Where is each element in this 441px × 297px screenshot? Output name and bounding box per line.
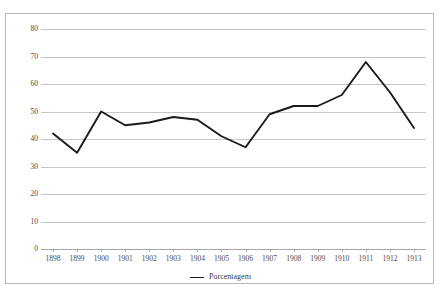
x-tick-1902 — [149, 249, 150, 252]
y-tick-label-10: 10 — [12, 218, 38, 226]
x-tick-1913 — [414, 249, 415, 252]
x-tick-1908 — [294, 249, 295, 252]
x-tick-1910 — [342, 249, 343, 252]
legend-label-porcentagem: Porcentagem — [209, 272, 251, 282]
x-tick-1909 — [318, 249, 319, 252]
y-tick-label-80: 80 — [12, 25, 38, 33]
y-tick-label-30: 30 — [12, 163, 38, 171]
legend-line-swatch — [190, 277, 204, 278]
x-tick-1907 — [270, 249, 271, 252]
y-tick-label-50: 50 — [12, 108, 38, 116]
x-tick-1904 — [197, 249, 198, 252]
chart-title — [0, 0, 441, 1]
x-tick-label-1913: 1913 — [399, 254, 429, 264]
y-tick-label-70: 70 — [12, 53, 38, 61]
y-tick-label-0: 0 — [12, 245, 38, 253]
x-tick-1899 — [77, 249, 78, 252]
x-tick-1906 — [246, 249, 247, 252]
y-tick-label-20: 20 — [12, 190, 38, 198]
x-tick-1905 — [221, 249, 222, 252]
y-axis-labels: 80706050403020100 — [6, 29, 38, 249]
y-tick-label-40: 40 — [12, 135, 38, 143]
y-tick-label-60: 60 — [12, 80, 38, 88]
series-line-porcentagem — [41, 29, 426, 249]
chart-container: 80706050403020100 1898189919001901190219… — [0, 0, 441, 297]
x-axis-tickmarks — [41, 249, 426, 253]
chart-legend: Porcentagem — [6, 272, 435, 282]
x-tick-1912 — [390, 249, 391, 252]
chart-plot-frame: 80706050403020100 1898189919001901190219… — [5, 13, 434, 284]
x-tick-1900 — [101, 249, 102, 252]
x-axis-labels: 1898189919001901190219031904190519061907… — [41, 254, 426, 266]
x-tick-1901 — [125, 249, 126, 252]
x-tick-1898 — [53, 249, 54, 252]
x-tick-1911 — [366, 249, 367, 252]
x-tick-1903 — [173, 249, 174, 252]
